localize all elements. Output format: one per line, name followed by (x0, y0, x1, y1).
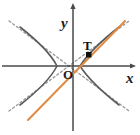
x-axis-arrowhead (130, 63, 136, 68)
tangent-line (28, 21, 125, 120)
y-axis-label: y (61, 16, 68, 31)
origin-label: O (63, 68, 73, 81)
x-axis-label: x (126, 71, 134, 86)
hyperbola-tangent-figure: y x O T (0, 0, 140, 135)
tangent-point-label: T (83, 39, 92, 52)
y-axis-arrowhead (70, 3, 75, 9)
